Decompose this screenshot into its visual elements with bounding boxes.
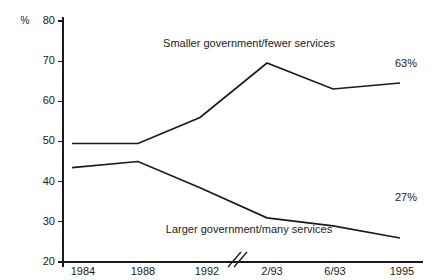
y-axis-unit-label: %	[21, 15, 30, 26]
x-tick-label-6-93: 6/93	[324, 265, 345, 277]
y-tick-label-60: 60	[43, 94, 55, 106]
x-tick-label-1988: 1988	[131, 265, 155, 277]
endpoint-label-27-percent: 27%	[395, 191, 417, 203]
endpoint-label-63-percent: 63%	[395, 57, 417, 69]
chart-plot-area: % 80 70 60 50 40 30 20 1984 1988 1992 2/…	[0, 0, 439, 280]
y-tick-label-80: 80	[43, 14, 55, 26]
line-chart: % 80 70 60 50 40 30 20 1984 1988 1992 2/…	[0, 0, 439, 280]
y-tick-label-20: 20	[43, 255, 55, 267]
y-tick-label-70: 70	[43, 54, 55, 66]
annotation-smaller-government: Smaller government/fewer services	[163, 37, 335, 49]
axis-break-marker	[228, 252, 247, 267]
annotation-larger-government: Larger government/many services	[166, 223, 333, 235]
y-tick-label-40: 40	[43, 175, 55, 187]
x-tick-label-2-93: 2/93	[261, 265, 282, 277]
x-tick-label-1995: 1995	[390, 265, 414, 277]
x-tick-label-1992: 1992	[195, 265, 219, 277]
y-tick-label-50: 50	[43, 134, 55, 146]
series-line-smaller-government	[72, 63, 400, 144]
x-tick-label-1984: 1984	[71, 265, 95, 277]
y-tick-label-30: 30	[43, 215, 55, 227]
